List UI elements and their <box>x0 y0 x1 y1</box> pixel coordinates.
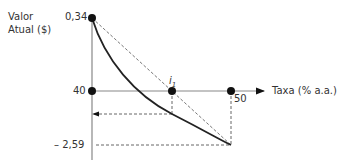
secant-line <box>92 18 231 145</box>
point-origin <box>88 87 96 95</box>
point-top <box>88 14 96 22</box>
irr-label: i1 <box>169 75 176 91</box>
y-zero-value: 40 <box>73 85 86 97</box>
x-axis-label: Taxa (% a.a.) <box>272 85 337 97</box>
y-bottom-value: – 2,59 <box>54 139 84 151</box>
y-axis-label-line1: Valor <box>8 11 33 23</box>
x-point-label-50: 50 <box>234 93 247 105</box>
y-top-value: 0,34 <box>65 11 87 23</box>
y-axis-label-line2: Atual ($) <box>8 24 51 36</box>
